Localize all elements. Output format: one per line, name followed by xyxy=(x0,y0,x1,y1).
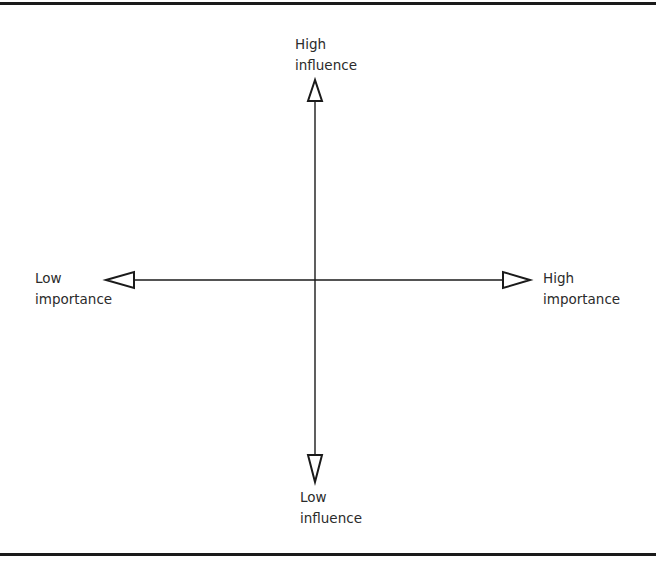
label-line: importance xyxy=(543,289,620,310)
label-line: importance xyxy=(35,289,112,310)
label-high-importance: High importance xyxy=(543,268,620,310)
arrow-down-icon xyxy=(308,455,322,482)
label-line: influence xyxy=(300,508,362,529)
arrow-right-icon xyxy=(503,272,530,288)
label-low-influence: Low influence xyxy=(300,487,362,529)
label-low-importance: Low importance xyxy=(35,268,112,310)
label-line: influence xyxy=(295,55,357,76)
arrow-up-icon xyxy=(308,80,322,101)
label-line: High xyxy=(543,268,620,289)
label-line: Low xyxy=(300,487,362,508)
label-line: Low xyxy=(35,268,112,289)
label-high-influence: High influence xyxy=(295,34,357,76)
label-line: High xyxy=(295,34,357,55)
